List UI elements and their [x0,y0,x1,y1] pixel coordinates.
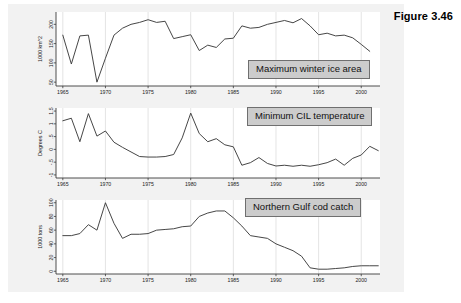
svg-text:200: 200 [48,20,54,29]
svg-text:1980: 1980 [185,277,197,283]
chart-ice-area: 1965197019751980198519901995200050100150… [8,8,404,100]
svg-text:-1: -1 [48,173,54,178]
callout-minimum-cil-temperature: Minimum CIL temperature [247,107,372,126]
svg-text:1970: 1970 [100,181,112,187]
svg-text:1995: 1995 [313,181,325,187]
svg-text:1990: 1990 [270,277,282,283]
svg-text:1970: 1970 [100,277,112,283]
svg-text:1975: 1975 [142,277,154,283]
svg-text:100: 100 [48,58,54,67]
svg-text:1990: 1990 [270,181,282,187]
svg-text:1995: 1995 [313,89,325,95]
svg-text:150: 150 [48,39,54,48]
svg-text:40: 40 [48,241,54,247]
svg-text:0: 0 [48,270,54,273]
svg-text:1980: 1980 [185,89,197,95]
svg-text:1985: 1985 [228,277,240,283]
svg-text:0: 0 [48,148,54,151]
svg-text:1975: 1975 [142,89,154,95]
svg-text:.5: .5 [48,134,54,138]
callout-maximum-winter-ice-area: Maximum winter ice area [248,60,370,79]
svg-text:1.5: 1.5 [48,107,54,114]
svg-text:2000: 2000 [355,89,367,95]
svg-text:1985: 1985 [228,89,240,95]
svg-text:1965: 1965 [57,89,69,95]
svg-text:50: 50 [48,79,54,85]
svg-text:1965: 1965 [57,277,69,283]
svg-text:1995: 1995 [313,277,325,283]
svg-text:20: 20 [48,255,54,261]
svg-text:1965: 1965 [57,181,69,187]
svg-text:1975: 1975 [142,181,154,187]
svg-text:100: 100 [48,198,54,207]
svg-text:2000: 2000 [355,181,367,187]
svg-text:1000 tons: 1000 tons [37,225,43,249]
svg-text:1000 km^2: 1000 km^2 [37,36,43,62]
svg-text:1980: 1980 [185,181,197,187]
figure-canvas: 1965197019751980198519901995200050100150… [8,4,404,292]
figure-root: 1965197019751980198519901995200050100150… [0,0,461,303]
svg-text:1985: 1985 [228,181,240,187]
svg-text:-.5: -.5 [48,159,54,165]
figure-number-label: Figure 3.46 [394,10,453,22]
callout-northern-gulf-cod-catch: Northern Gulf cod catch [245,198,361,217]
svg-text:80: 80 [48,213,54,219]
svg-text:60: 60 [48,227,54,233]
svg-text:Degrees C: Degrees C [37,130,43,156]
svg-text:2000: 2000 [355,277,367,283]
svg-text:1990: 1990 [270,89,282,95]
svg-text:1: 1 [48,122,54,125]
svg-text:1970: 1970 [100,89,112,95]
panel-maximum-winter-ice-area: 1965197019751980198519901995200050100150… [8,8,404,100]
